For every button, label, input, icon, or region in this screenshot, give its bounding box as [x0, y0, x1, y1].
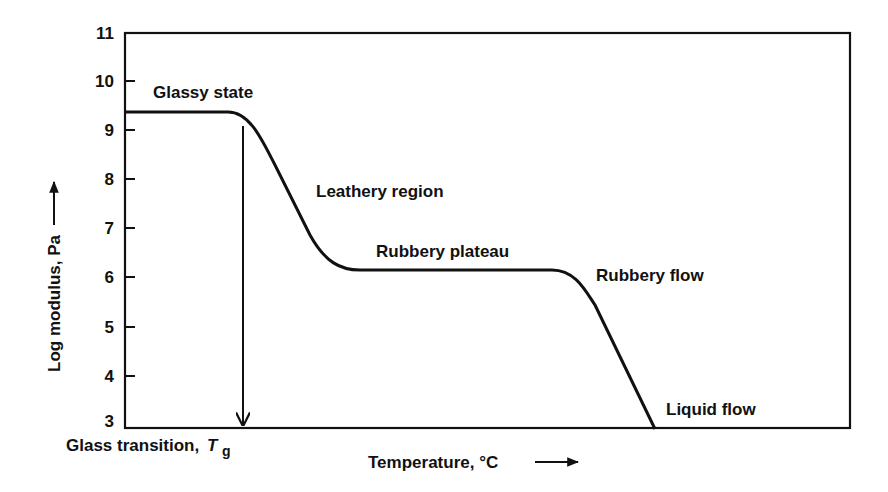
label-rubbery-flow: Rubbery flow: [596, 266, 704, 285]
x-axis-label: Temperature, °C: [368, 453, 498, 472]
label-glassy-state: Glassy state: [153, 83, 253, 102]
label-glass-transition: Glass transition, T g: [66, 436, 231, 459]
modulus-curve: [125, 112, 655, 429]
ytick-11: 11: [96, 24, 114, 43]
modulus-temperature-chart: 3 4 5 6 7 8 9 10 11 Log modulus, Pa Glas…: [0, 0, 888, 492]
ytick-10: 10: [95, 72, 114, 91]
ytick-7: 7: [105, 219, 114, 238]
ytick-5: 5: [105, 318, 114, 337]
tg-symbol: T: [207, 436, 219, 455]
label-liquid-flow: Liquid flow: [666, 400, 756, 419]
label-rubbery-plateau: Rubbery plateau: [376, 242, 509, 261]
tg-subscript: g: [222, 443, 231, 459]
ytick-8: 8: [105, 170, 114, 189]
tg-prefix: Glass transition,: [66, 436, 199, 455]
ytick-9: 9: [105, 121, 114, 140]
label-leathery-region: Leathery region: [316, 182, 444, 201]
y-axis-tick-labels: 3 4 5 6 7 8 9 10 11: [95, 24, 114, 431]
ytick-6: 6: [105, 268, 114, 287]
y-axis-label-group: Log modulus, Pa: [45, 182, 64, 372]
y-axis-ticks: [125, 81, 135, 376]
ytick-3: 3: [105, 412, 114, 431]
y-axis-label: Log modulus, Pa: [45, 234, 64, 371]
ytick-4: 4: [105, 367, 115, 386]
